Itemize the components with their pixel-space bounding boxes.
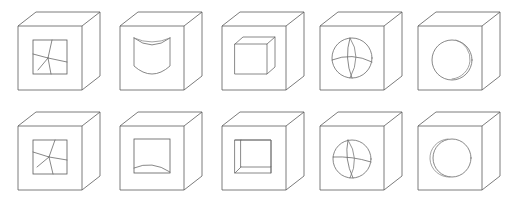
sphere-with-meridians [333,140,371,178]
cube-plain-sphere-top [408,4,512,107]
cube-body-outline [320,112,402,190]
cube-recessed-square-bottom [212,104,316,205]
figure-root [0,0,519,205]
inner-cube-shape [235,37,275,74]
cylinder-shape [134,38,170,74]
square-window [134,139,170,173]
cube-body-outline [320,12,402,90]
cube-body-outline [120,12,202,90]
cube-concave-floor-bottom [110,104,214,205]
cube-plain-sphere-bottom [408,104,512,205]
cube-cracked-square-bottom [8,104,112,205]
cube-concave-cylinder-top [110,4,214,107]
recessed-cavity [235,140,271,173]
cube-grid [0,0,519,205]
cube-meridian-sphere-top [310,4,414,107]
cube-body-outline [222,112,304,190]
sphere-with-rim-arc [432,40,472,80]
cube-body-outline [418,112,500,190]
sphere-with-meridians [332,38,372,78]
cube-inner-cube-top [212,4,316,107]
cube-body-outline [222,12,304,90]
sphere-with-rim-arc [430,139,471,177]
cube-cracked-square-top [8,4,112,107]
cube-meridian-sphere-bottom [310,104,414,205]
cube-body-outline [418,12,500,90]
